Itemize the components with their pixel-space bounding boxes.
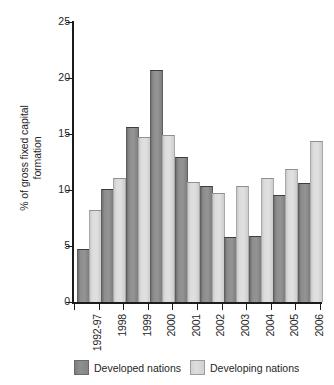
x-tick-mark [148, 303, 149, 310]
bar-developing-2004 [261, 178, 274, 302]
legend-swatch-icon [74, 360, 89, 375]
x-tick-mark [123, 303, 124, 310]
bar-developing-2006 [310, 141, 323, 302]
legend-label: Developing nations [210, 362, 299, 374]
y-tick-label: 20 [58, 71, 70, 83]
x-tick-mark [246, 303, 247, 310]
bar-developing-2003 [236, 186, 249, 302]
y-tick-label: 10 [58, 183, 70, 195]
x-tick-mark [320, 303, 321, 310]
y-axis-title: % of gross fixed capital formation [15, 58, 47, 258]
y-axis-title-line-1: % of gross fixed capital [18, 105, 31, 211]
x-tick-mark [271, 303, 272, 310]
chart-legend: Developed nationsDeveloping nations [74, 360, 324, 375]
bar-developing-2001 [187, 182, 200, 302]
plot-area: 0510152025 1992-971998199920002001200220… [74, 22, 320, 302]
x-tick-mark [197, 303, 198, 310]
x-tick-mark [172, 303, 173, 310]
y-tick-label: 15 [58, 127, 70, 139]
legend-label: Developed nations [94, 362, 181, 374]
x-tick-mark [295, 303, 296, 310]
legend-entry-developing: Developing nations [190, 360, 299, 375]
x-tick-mark [74, 303, 75, 310]
y-axis-title-line-2: formation [31, 137, 44, 180]
bar-chart-figure: % of gross fixed capital formation 05101… [0, 0, 334, 385]
x-tick-mark [222, 303, 223, 310]
bar-developing-2000 [162, 135, 175, 302]
bar-developing-2005 [285, 169, 298, 302]
legend-swatch-icon [190, 360, 205, 375]
legend-entry-developed: Developed nations [74, 360, 181, 375]
bar-developing-1999 [138, 137, 151, 302]
x-tick-mark [99, 303, 100, 310]
y-axis-line [72, 21, 74, 303]
y-tick-label: 5 [64, 239, 70, 251]
bar-developing-1992-97 [89, 210, 102, 302]
bar-developing-1998 [113, 178, 126, 302]
y-tick-label: 0 [64, 295, 70, 307]
bar-developing-2002 [212, 193, 225, 302]
y-tick-label: 25 [58, 15, 70, 27]
